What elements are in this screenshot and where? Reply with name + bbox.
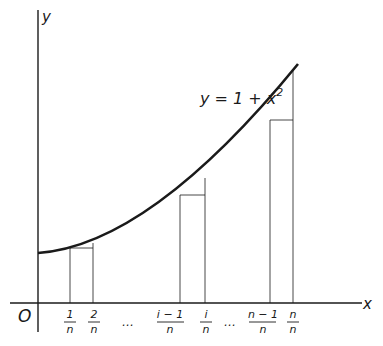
tick-label-2-over-n: 2 n [88, 308, 100, 336]
svg-text:n: n [260, 323, 267, 336]
svg-text:2: 2 [91, 308, 98, 321]
svg-text:n: n [203, 323, 210, 336]
ellipsis-2: … [224, 315, 236, 329]
svg-text:i: i [204, 308, 207, 321]
svg-text:n: n [290, 308, 297, 321]
tick-label-1-over-n: 1 n [64, 308, 76, 336]
svg-text:i − 1: i − 1 [157, 308, 183, 321]
svg-text:n: n [290, 323, 297, 336]
origin-label: O [18, 306, 31, 326]
riemann-sum-diagram: y = 1 + x2 y x O 1 n 2 n … i − 1 n i n …… [0, 0, 383, 346]
svg-text:n: n [167, 323, 174, 336]
tick-label-n-minus-1-over-n: n − 1 n [248, 308, 278, 336]
ellipsis-1: … [122, 315, 134, 329]
tick-label-n-over-n: n n [287, 308, 299, 336]
svg-text:n: n [67, 323, 74, 336]
svg-text:1: 1 [67, 308, 74, 321]
rectangle-first [70, 243, 93, 303]
tick-label-i-over-n: i n [200, 308, 212, 336]
tick-label-i-minus-1-over-n: i − 1 n [157, 308, 184, 336]
svg-text:n − 1: n − 1 [248, 308, 278, 321]
svg-text:n: n [91, 323, 98, 336]
curve-label: y = 1 + x2 [199, 86, 283, 108]
rectangle-middle [180, 178, 205, 303]
x-axis-label: x [362, 295, 372, 313]
y-axis-label: y [41, 8, 52, 26]
